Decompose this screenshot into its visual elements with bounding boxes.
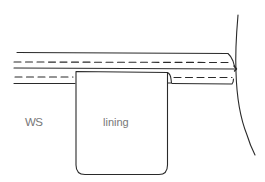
upper-stitch-line <box>14 62 232 63</box>
garment-edge-curve <box>236 15 255 155</box>
lower-layer-bottom-edge-right <box>172 79 234 84</box>
lining-fold-corner <box>168 73 172 84</box>
diagram-drawing <box>0 0 265 182</box>
wrong-side-label: WS <box>25 117 43 129</box>
sewing-diagram: WS lining <box>0 0 265 182</box>
upper-layer-top-edge <box>17 53 236 69</box>
middle-layer-edge <box>14 68 236 69</box>
lining-label: lining <box>103 117 129 128</box>
